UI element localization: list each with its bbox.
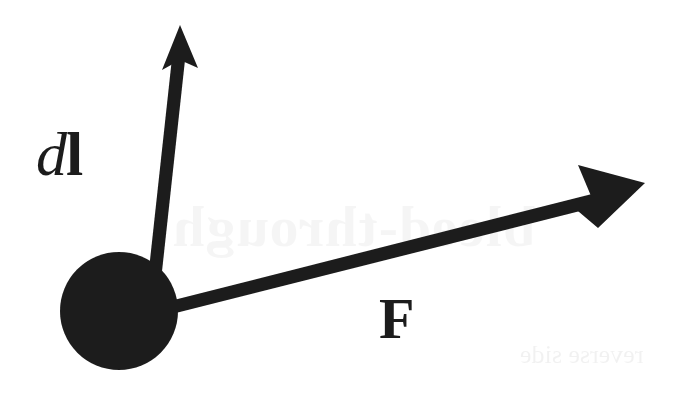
vector-diagram-svg xyxy=(0,0,682,398)
dl-label-italic-d: d xyxy=(36,120,66,188)
F-vector-shaft xyxy=(150,194,596,319)
F-label: F xyxy=(379,290,414,348)
dl-label: dl xyxy=(36,123,83,185)
figure-canvas: bleed-through reverse side xyxy=(0,0,682,398)
point-particle xyxy=(60,252,178,370)
dl-label-bold-l: l xyxy=(66,120,83,188)
